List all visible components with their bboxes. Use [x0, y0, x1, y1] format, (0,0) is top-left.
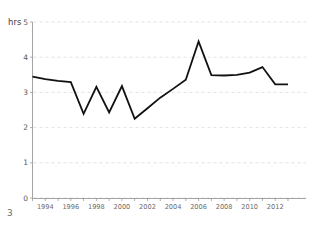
x-tick-label: 2004	[165, 203, 182, 211]
chart-page: 012345 199419961998200020022004200620082…	[0, 0, 325, 227]
line-chart: 012345 199419961998200020022004200620082…	[0, 0, 325, 227]
chart-background	[0, 0, 325, 227]
x-tick-label: 1998	[88, 203, 105, 211]
y-tick-label: 0	[23, 194, 28, 203]
y-tick-label: 1	[23, 158, 28, 167]
x-tick-label: 2012	[267, 203, 284, 211]
x-tick-label: 2008	[216, 203, 233, 211]
y-tick-label: 3	[23, 88, 28, 97]
x-tick-label: 2002	[139, 203, 156, 211]
x-tick-label: 2006	[190, 203, 207, 211]
y-axis-title: hrs	[8, 17, 22, 27]
x-tick-label: 1994	[37, 203, 54, 211]
y-tick-label: 2	[23, 123, 28, 132]
x-tick-label: 1996	[62, 203, 79, 211]
x-tick-label: 2000	[114, 203, 131, 211]
x-tick-label: 2010	[241, 203, 258, 211]
y-tick-label: 4	[23, 53, 28, 62]
page-number: 3	[7, 207, 13, 219]
y-tick-label: 5	[23, 18, 28, 27]
